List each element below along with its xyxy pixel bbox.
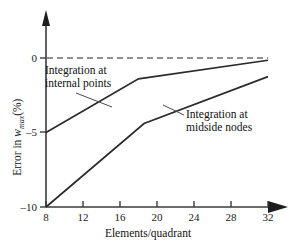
annotation-internal-points: Integration at internal points	[45, 64, 111, 90]
x-axis-title: Elements/quadrant	[105, 228, 191, 240]
annotation-internal-points-line1: Integration at	[45, 64, 111, 77]
y-tick-label-neg10: –10	[14, 202, 37, 213]
y-axis-title-variable: w	[11, 129, 23, 137]
y-axis-title: Error in wmax(%)	[12, 72, 26, 202]
y-tick-label-0: 0	[20, 53, 37, 64]
y-axis-title-suffix: (%)	[11, 99, 23, 116]
x-tick-label-32: 32	[263, 212, 274, 223]
annotation-internal-points-line2: internal points	[45, 77, 111, 90]
annotation-midside-nodes-line2: midside nodes	[186, 121, 252, 134]
chart-figure: 8 12 16 20 24 28 32 0 –5 –10 Elements/qu…	[0, 0, 296, 249]
series-midside-nodes-line	[46, 77, 268, 207]
annotation-midside-nodes-line1: Integration at	[186, 108, 252, 121]
x-tick-label-20: 20	[152, 212, 163, 223]
x-tick-label-12: 12	[78, 212, 89, 223]
annotation-midside-nodes: Integration at midside nodes	[186, 108, 252, 134]
x-tick-label-8: 8	[43, 212, 49, 223]
x-tick-label-28: 28	[226, 212, 237, 223]
y-axis-title-subscript: max	[17, 116, 26, 129]
y-axis-title-prefix: Error in	[11, 137, 23, 176]
x-tick-label-24: 24	[189, 212, 200, 223]
y-axis-arrow-icon	[42, 10, 50, 26]
x-tick-label-16: 16	[115, 212, 126, 223]
